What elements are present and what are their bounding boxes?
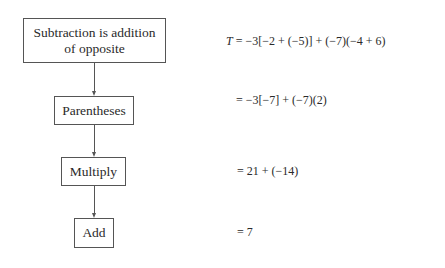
- equation-expression-3: = 21 + (−14): [237, 164, 298, 178]
- equation-line-3: = 21 + (−14): [237, 164, 298, 179]
- step-parentheses-box: Parentheses: [54, 96, 134, 125]
- equation-expression-1: = −3[−2 + (−5)] + (−7)(−4 + 6): [236, 34, 386, 48]
- step-add-label: Add: [82, 225, 105, 241]
- equation-line-4: = 7: [237, 225, 253, 240]
- equation-expression-4: = 7: [237, 225, 253, 239]
- step-multiply-label: Multiply: [70, 164, 117, 180]
- connector-3: [94, 186, 95, 214]
- connector-1: [94, 63, 95, 92]
- step-add-box: Add: [74, 218, 114, 248]
- step-subtraction-label-line2: of opposite: [64, 41, 124, 57]
- step-subtraction-label-line1: Subtraction is addition: [33, 25, 155, 41]
- step-multiply-box: Multiply: [61, 157, 126, 186]
- step-subtraction-box: Subtraction is addition of opposite: [23, 18, 166, 63]
- connector-2: [94, 125, 95, 153]
- equation-line-1: T = −3[−2 + (−5)] + (−7)(−4 + 6): [226, 34, 386, 49]
- equation-variable: T: [226, 34, 233, 48]
- equation-line-2: = −3[−7] + (−7)(2): [236, 93, 327, 108]
- equation-expression-2: = −3[−7] + (−7)(2): [236, 93, 327, 107]
- step-parentheses-label: Parentheses: [62, 103, 126, 119]
